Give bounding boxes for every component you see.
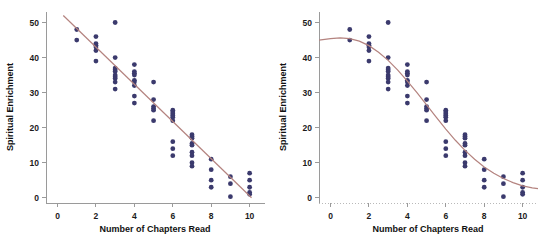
left-data-point [247, 171, 252, 176]
right-y-tick-label: 30 [303, 88, 313, 98]
left-data-point [74, 38, 79, 43]
left-data-point [170, 139, 175, 144]
right-y-tick-label: 40 [303, 53, 313, 63]
right-fit-curve [319, 38, 538, 189]
left-data-point [209, 178, 214, 183]
right-data-point [520, 192, 525, 197]
left-x-tick-label: 6 [170, 211, 175, 221]
left-data-point [170, 153, 175, 158]
right-data-point [367, 48, 372, 53]
left-data-point [113, 55, 118, 60]
left-y-tick-label: 40 [30, 53, 40, 63]
left-data-point [228, 181, 233, 186]
right-y-tick-label: 0 [307, 193, 312, 203]
left-x-ticks: 0246810 [55, 203, 254, 221]
left-data-point [247, 178, 252, 183]
right-data-point [443, 139, 448, 144]
right-data-point [347, 27, 352, 32]
left-data-point [151, 118, 156, 123]
right-x-tick-label: 6 [443, 211, 448, 221]
left-data-point [209, 167, 214, 172]
left-data-point [94, 59, 99, 64]
right-data-point [520, 171, 525, 176]
left-data-point [94, 34, 99, 39]
left-data-point [132, 73, 137, 78]
left-data-point [132, 101, 137, 106]
right-y-tick-label: 10 [303, 158, 313, 168]
left-data-point [132, 62, 137, 67]
left-y-tick-label: 10 [30, 158, 40, 168]
left-y-tick-label: 0 [34, 193, 39, 203]
left-data-point [113, 80, 118, 85]
right-y-tick-label: 50 [303, 18, 313, 28]
left-panel-plot: 01020304050 0246810 Number of Chapters R… [0, 0, 273, 245]
right-data-point [367, 34, 372, 39]
right-data-point [424, 118, 429, 123]
left-data-point [190, 143, 195, 148]
left-data-point [228, 194, 233, 199]
right-x-tick-label: 8 [482, 211, 487, 221]
left-x-tick-label: 10 [245, 211, 255, 221]
left-x-tick-label: 4 [132, 211, 137, 221]
right-data-point [463, 153, 468, 158]
right-data-point [386, 20, 391, 25]
right-data-point [424, 108, 429, 113]
left-data-point [151, 80, 156, 85]
right-data-point [424, 97, 429, 102]
right-panel-plot: 01020304050 0246810 Number of Chapters R… [273, 0, 546, 245]
right-x-tick-label: 10 [518, 211, 528, 221]
left-y-tick-label: 30 [30, 88, 40, 98]
right-data-point [405, 73, 410, 78]
left-data-point [170, 146, 175, 151]
right-data-point [405, 62, 410, 67]
left-panel: 01020304050 0246810 Number of Chapters R… [0, 0, 273, 245]
right-y-axis-title: Spiritual Enrichment [278, 63, 288, 151]
right-data-point [463, 143, 468, 148]
right-x-tick-label: 4 [405, 211, 410, 221]
left-data-point [132, 94, 137, 99]
left-x-tick-label: 8 [209, 211, 214, 221]
left-y-tick-label: 20 [30, 123, 40, 133]
right-x-axis-title: Number of Chapters Read [372, 224, 483, 234]
right-data-point [501, 194, 506, 199]
left-data-point [190, 164, 195, 169]
left-fit-line [63, 16, 251, 198]
right-data-point [520, 178, 525, 183]
right-data-point [482, 185, 487, 190]
left-data-point [113, 87, 118, 92]
left-data-point [151, 108, 156, 113]
right-x-ticks: 0246810 [328, 203, 527, 221]
right-data-point [424, 80, 429, 85]
right-data-point [482, 178, 487, 183]
right-data-point [443, 118, 448, 123]
right-data-point [386, 87, 391, 92]
right-data-point [386, 80, 391, 85]
right-x-tick-label: 2 [367, 211, 372, 221]
left-data-point [190, 153, 195, 158]
right-y-tick-label: 20 [303, 123, 313, 133]
right-panel: 01020304050 0246810 Number of Chapters R… [273, 0, 546, 245]
left-x-axis-title: Number of Chapters Read [99, 224, 210, 234]
right-data-point [463, 136, 468, 141]
scatterplot-figure: 01020304050 0246810 Number of Chapters R… [0, 0, 546, 245]
right-x-tick-label: 0 [328, 211, 333, 221]
right-data-point [405, 101, 410, 106]
right-data-point [367, 59, 372, 64]
left-data-point [209, 185, 214, 190]
right-data-point [463, 164, 468, 169]
left-data-point [247, 185, 252, 190]
right-data-point [443, 153, 448, 158]
right-y-ticks: 01020304050 [303, 18, 319, 203]
right-data-point [501, 181, 506, 186]
right-data-point [443, 146, 448, 151]
left-y-tick-label: 50 [30, 18, 40, 28]
left-x-tick-label: 0 [55, 211, 60, 221]
right-scatter-points [347, 20, 525, 199]
right-data-point [405, 94, 410, 99]
left-x-tick-label: 2 [94, 211, 99, 221]
right-data-point [482, 157, 487, 162]
left-y-ticks: 01020304050 [30, 18, 46, 203]
left-y-axis-title: Spiritual Enrichment [5, 63, 15, 151]
left-data-point [113, 20, 118, 25]
